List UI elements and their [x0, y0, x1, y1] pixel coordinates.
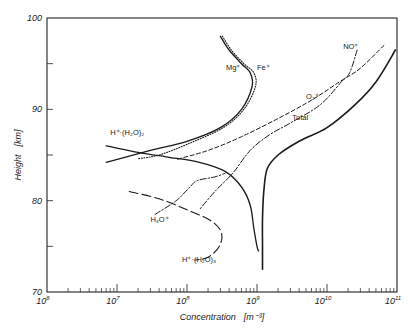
curve-label: O₂⁺: [306, 92, 319, 101]
y-tick-label: 80: [32, 196, 42, 206]
chart: 10610710810910101011708090100 Mg⁺Fe⁺NO⁺O…: [0, 0, 420, 333]
series-h3o--line: [155, 173, 225, 214]
x-tick-label: 1011: [385, 295, 401, 306]
series-no--line: [199, 50, 357, 210]
curve-label: Fe⁺: [257, 63, 270, 72]
curve-label: Total: [292, 113, 308, 122]
series-h-h2o-3-line: [129, 192, 222, 261]
curve-label: H⁺·(H₂O)₂: [110, 128, 144, 137]
x-axis-title: Concentration[m⁻³]: [180, 312, 265, 322]
data-series: [106, 36, 395, 269]
plot-frame: [47, 18, 397, 292]
series-mg--line: [106, 36, 252, 162]
series-total-line: [262, 50, 395, 269]
series-h-h2o-2-line: [106, 146, 258, 251]
curve-label: Mg⁺: [226, 63, 240, 72]
x-tick-label: 107: [106, 295, 120, 306]
curve-label: NO⁺: [343, 42, 358, 51]
curve-label: H₃O⁺: [150, 215, 168, 224]
series-fe--line: [138, 36, 256, 158]
curve-labels: Mg⁺Fe⁺NO⁺O₂⁺TotalH⁺·(H₂O)₂H₃O⁺H⁺·(H₂O)₃: [110, 42, 358, 264]
x-tick-label: 108: [176, 295, 190, 306]
x-tick-label: 109: [246, 295, 260, 306]
y-tick-label: 70: [32, 287, 42, 297]
x-tick-label: 1010: [315, 295, 332, 306]
curve-label: H⁺·(H₂O)₃: [182, 255, 216, 264]
y-tick-label: 100: [27, 13, 42, 23]
series-o2--line: [176, 45, 384, 159]
y-tick-label: 90: [32, 104, 42, 114]
y-axis-title: Height[km]: [13, 129, 23, 181]
